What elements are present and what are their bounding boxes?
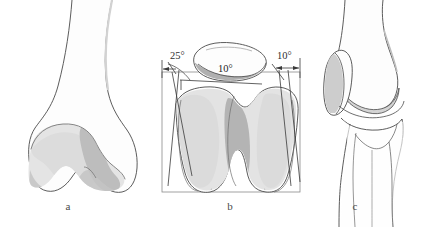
angle-arrow-left <box>163 67 169 71</box>
anatomy-figure-svg: 25° 10° 10° <box>0 0 435 227</box>
patella-axial-outline <box>194 42 267 81</box>
angle-arrow-right-2 <box>276 66 282 70</box>
panel-a-anterior-femur <box>20 0 140 200</box>
panel-c-lateral-knee <box>324 0 404 227</box>
panel-caption-a: a <box>58 200 78 212</box>
angle-label-patella: 10° <box>218 63 233 74</box>
angle-label-right: 10° <box>277 50 292 61</box>
panel-caption-c: c <box>345 200 365 212</box>
angle-arrow-right <box>293 66 299 70</box>
panel-b-axial-trochlea: 25° 10° 10° <box>162 42 305 200</box>
angle-label-left: 25° <box>170 50 185 61</box>
panel-caption-b: b <box>220 200 240 212</box>
